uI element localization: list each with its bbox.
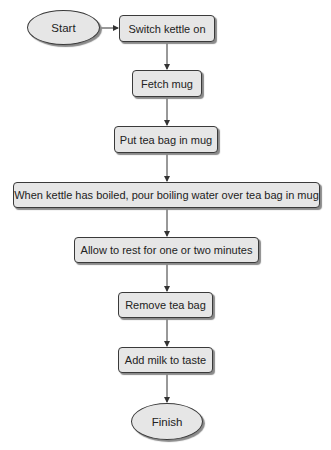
finish-node: Finish (131, 403, 203, 440)
step-label: Put tea bag in mug (120, 134, 212, 146)
step-pour-water: When kettle has boiled, pour boiling wat… (13, 182, 320, 208)
step-remove-tea-bag: Remove tea bag (118, 292, 213, 318)
finish-label: Finish (152, 416, 183, 428)
step-add-milk: Add milk to taste (118, 347, 213, 373)
step-label: Fetch mug (141, 78, 193, 90)
step-label: Add milk to taste (125, 354, 206, 366)
start-node: Start (27, 10, 100, 45)
step-switch-kettle-on: Switch kettle on (119, 15, 215, 42)
step-allow-to-rest: Allow to rest for one or two minutes (74, 237, 259, 263)
step-label: When kettle has boiled, pour boiling wat… (14, 189, 319, 201)
step-label: Allow to rest for one or two minutes (81, 244, 253, 256)
step-put-tea-bag: Put tea bag in mug (114, 126, 218, 153)
step-label: Switch kettle on (128, 23, 205, 35)
step-fetch-mug: Fetch mug (132, 70, 202, 97)
step-label: Remove tea bag (125, 299, 206, 311)
start-label: Start (51, 22, 75, 34)
connector-arrows (0, 0, 331, 450)
